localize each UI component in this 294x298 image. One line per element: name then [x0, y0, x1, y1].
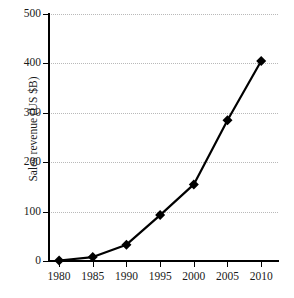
gridline-y	[49, 162, 278, 163]
sales-revenue-line-chart: Sales revenue (US $B) 0100200300400500 1…	[0, 0, 294, 298]
x-tick-mark	[126, 261, 127, 267]
y-tick-mark	[43, 162, 49, 163]
y-tick-label: 200	[24, 156, 41, 168]
y-tick-mark	[43, 212, 49, 213]
y-tick-mark	[43, 261, 49, 262]
x-tick-label: 2000	[182, 270, 205, 282]
gridline-y	[49, 63, 278, 64]
y-axis-tick-labels: 0100200300400500	[0, 0, 41, 298]
x-tick-label: 2010	[250, 270, 273, 282]
y-tick-mark	[43, 63, 49, 64]
x-tick-label: 1990	[115, 270, 138, 282]
x-tick-mark	[261, 261, 262, 267]
y-axis-line	[48, 13, 50, 262]
gridline-y	[49, 14, 278, 15]
x-tick-label: 1985	[81, 270, 104, 282]
y-tick-mark	[43, 113, 49, 114]
x-tick-mark	[59, 261, 60, 267]
gridline-y	[49, 113, 278, 114]
gridline-y	[49, 212, 278, 213]
x-tick-mark	[160, 261, 161, 267]
y-tick-mark	[43, 14, 49, 15]
x-tick-label: 2005	[216, 270, 239, 282]
plot-area	[49, 14, 278, 261]
y-tick-label: 400	[24, 57, 41, 69]
x-tick-mark	[227, 261, 228, 267]
y-tick-label: 0	[35, 255, 41, 267]
x-tick-mark	[93, 261, 94, 267]
y-tick-label: 100	[24, 206, 41, 218]
x-tick-label: 1980	[48, 270, 71, 282]
y-tick-label: 300	[24, 107, 41, 119]
x-tick-label: 1995	[149, 270, 172, 282]
x-axis-line	[48, 260, 279, 262]
y-tick-label: 500	[24, 8, 41, 20]
x-tick-mark	[194, 261, 195, 267]
